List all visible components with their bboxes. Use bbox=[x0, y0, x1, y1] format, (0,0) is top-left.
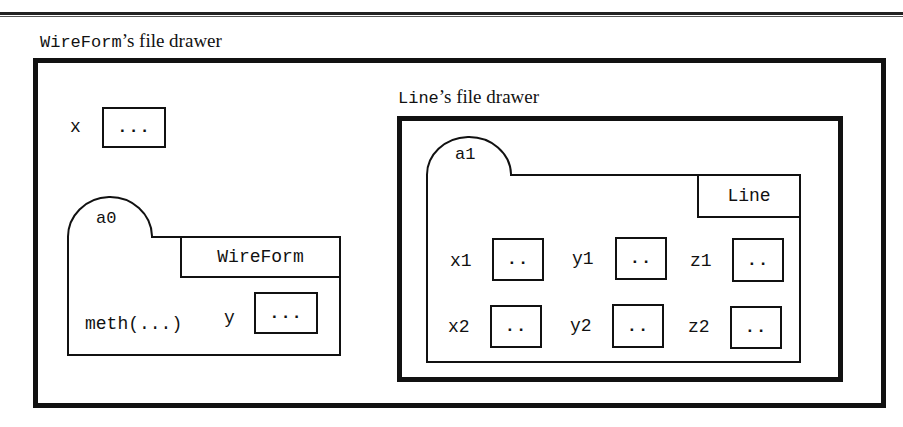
field-label-z1: z1 bbox=[690, 251, 712, 271]
field-slot-y2[interactable]: .. bbox=[612, 304, 664, 348]
field-slot-x1[interactable]: .. bbox=[492, 238, 544, 281]
field-label-x1: x1 bbox=[450, 251, 472, 271]
field-slot-z1[interactable]: .. bbox=[732, 238, 784, 282]
field-slot-y1[interactable]: .. bbox=[615, 237, 667, 280]
field-label-x2: x2 bbox=[448, 317, 470, 337]
object-a1-tab-label: a1 bbox=[455, 145, 475, 164]
object-a1-class-tag: Line bbox=[697, 174, 801, 218]
field-slot-x2[interactable]: .. bbox=[490, 305, 542, 348]
field-slot-z2[interactable]: .. bbox=[730, 306, 782, 349]
field-label-z2: z2 bbox=[688, 317, 710, 337]
field-label-y1: y1 bbox=[572, 249, 594, 269]
field-label-y2: y2 bbox=[570, 316, 592, 336]
